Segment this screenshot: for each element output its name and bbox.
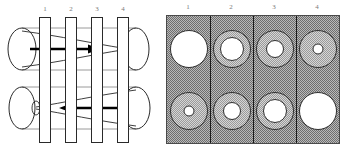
upper-tube (0, 22, 166, 76)
xsection-cell-lower-4 (296, 16, 339, 143)
cross-section-panel (166, 15, 340, 144)
side-view-panel: 1 2 3 4 (0, 0, 166, 150)
xsection-label-1: 1 (183, 4, 193, 11)
station-label-1: 1 (40, 6, 50, 13)
station-bar-4 (117, 17, 129, 143)
xsection-label-4: 4 (312, 4, 322, 11)
figure-root: 1 2 3 4 (0, 0, 348, 150)
xsection-core-lower-1 (183, 106, 194, 117)
xsection-core-lower-3 (263, 99, 287, 123)
xsection-label-3: 3 (269, 4, 279, 11)
xsection-cell-lower-2 (210, 16, 253, 143)
upper-tube-graphic (0, 22, 166, 76)
lower-tube (0, 80, 166, 136)
station-bar-2 (65, 17, 77, 143)
xsection-label-2: 2 (226, 4, 236, 11)
lower-tube-graphic (0, 80, 166, 136)
xsection-cell-lower-3 (253, 16, 296, 143)
xsection-core-lower-4 (299, 92, 337, 130)
station-label-4: 4 (118, 6, 128, 13)
xsection-core-lower-2 (223, 102, 241, 120)
station-bar-1 (39, 17, 51, 143)
station-label-3: 3 (92, 6, 102, 13)
xsection-cell-lower-1 (167, 16, 210, 143)
station-label-2: 2 (66, 6, 76, 13)
station-bar-3 (91, 17, 103, 143)
